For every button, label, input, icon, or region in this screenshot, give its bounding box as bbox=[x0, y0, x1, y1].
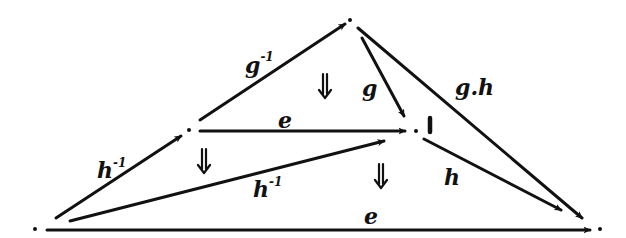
edge-b-c-arrow bbox=[200, 24, 345, 120]
label-edge-d-e: h bbox=[444, 164, 460, 190]
label-edge-a-e: e bbox=[364, 203, 378, 229]
vertex-d bbox=[414, 129, 418, 133]
commutative-diagram: h-1 g-1 e g g.h h h-1 e bbox=[0, 0, 626, 238]
two-cell-arrow-left bbox=[198, 149, 210, 173]
edge-a-d-arrow bbox=[70, 141, 384, 221]
edge-c-e-arrow bbox=[358, 28, 582, 218]
label-edge-a-d: h-1 bbox=[253, 175, 282, 202]
vertex-b bbox=[187, 128, 191, 132]
vertex-c bbox=[348, 18, 352, 22]
label-edge-a-b: h-1 bbox=[97, 156, 126, 183]
label-edge-b-d: e bbox=[278, 107, 292, 133]
two-cell-arrow-upper bbox=[319, 74, 331, 98]
vertex-a bbox=[33, 227, 37, 231]
vertex-e bbox=[598, 227, 602, 231]
two-cell-arrow-right bbox=[375, 164, 387, 188]
label-edge-c-e: g.h bbox=[455, 74, 494, 100]
label-edge-c-d: g bbox=[362, 75, 377, 101]
edge-a-b-arrow bbox=[56, 136, 181, 218]
